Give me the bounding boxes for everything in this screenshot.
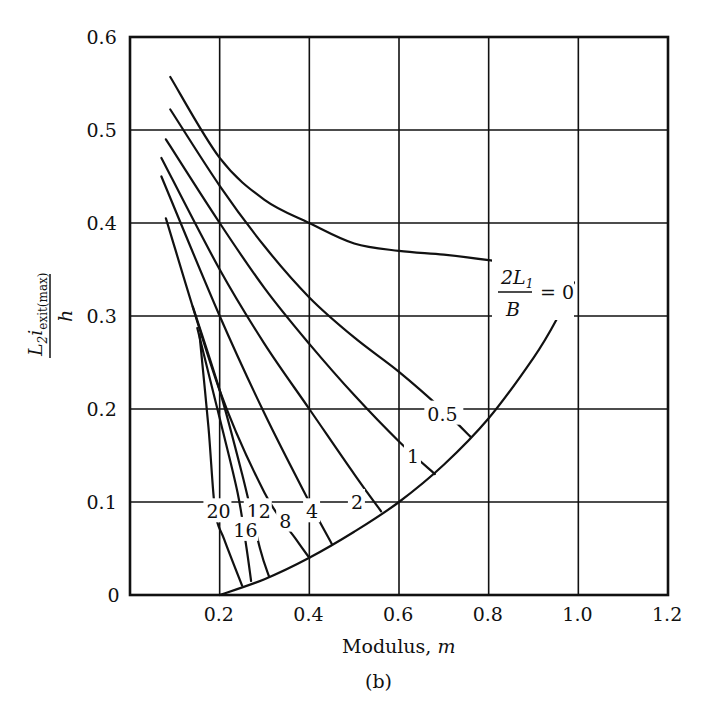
y-tick-label: 0.2 xyxy=(87,398,117,420)
curve-1 xyxy=(166,139,435,474)
chart: 0.20.40.60.81.01.2 00.10.20.30.40.50.6 0… xyxy=(0,0,716,714)
svg-text:L2iexit(max): L2iexit(max) xyxy=(24,272,50,357)
y-tick-label: 0.3 xyxy=(87,305,117,327)
curve-label: 1 xyxy=(407,445,419,467)
x-axis-title: Modulus, m xyxy=(342,635,455,657)
curve-label: 0.5 xyxy=(427,403,457,425)
y-tick-label: 0.6 xyxy=(87,26,117,48)
curve-label: 20 xyxy=(206,500,230,522)
y-tick-label: 0.1 xyxy=(87,491,117,513)
svg-text:= 0: = 0 xyxy=(540,281,574,303)
y-tick-label: 0.5 xyxy=(87,119,117,141)
x-tick-label: 0.6 xyxy=(383,603,413,625)
curve-label: 2 xyxy=(351,491,363,513)
curve-0 xyxy=(170,77,574,283)
curve-labels: 0.51248121620 xyxy=(203,401,463,541)
curve-8 xyxy=(166,218,309,558)
curve-label: 16 xyxy=(233,519,257,541)
y-tick-label: 0.4 xyxy=(87,212,117,234)
y-axis-ticks: 00.10.20.30.40.50.6 xyxy=(87,26,120,606)
x-tick-label: 1.0 xyxy=(562,603,592,625)
x-tick-label: 0.4 xyxy=(293,603,323,625)
x-tick-label: 0.2 xyxy=(204,603,234,625)
x-tick-label: 0.8 xyxy=(473,603,503,625)
curve-2 xyxy=(161,158,381,511)
x-tick-label: 1.2 xyxy=(652,603,682,625)
curve-0-5 xyxy=(170,110,470,437)
x-axis-ticks: 0.20.40.60.81.01.2 xyxy=(204,603,683,625)
svg-text:h: h xyxy=(54,310,76,322)
curve-20 xyxy=(200,335,243,586)
svg-text:B: B xyxy=(505,298,520,320)
y-tick-label: 0 xyxy=(108,584,120,606)
figure-subtitle: (b) xyxy=(365,670,392,692)
curve-label: 8 xyxy=(279,510,291,532)
curve-label: 4 xyxy=(306,500,318,522)
y-axis-title: L2iexit(max) h xyxy=(24,272,76,358)
parameter-label: 2L1 B = 0 xyxy=(492,258,574,320)
